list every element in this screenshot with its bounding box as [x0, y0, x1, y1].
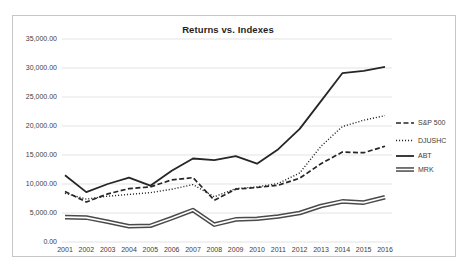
x-tick-label: 2005 — [143, 246, 159, 253]
legend-label: DJUSHC — [418, 137, 446, 144]
x-tick-label: 2010 — [249, 246, 265, 253]
x-tick-label: 2002 — [79, 246, 95, 253]
y-tick-label: 20,000.00 — [26, 122, 57, 129]
chart-plot: 0.005,000.0010,000.0015,000.0020,000.002… — [0, 0, 470, 273]
x-tick-label: 2001 — [57, 246, 73, 253]
legend-label: MRK — [418, 166, 434, 173]
gridlines — [62, 39, 392, 242]
x-tick-label: 2006 — [164, 246, 180, 253]
y-tick-label: 10,000.00 — [26, 180, 57, 187]
series-path — [65, 67, 385, 192]
legend-item-s-p-500: S&P 500 — [396, 119, 446, 126]
y-tick-label: 5,000.00 — [30, 209, 57, 216]
legend-item-mrk: MRK — [396, 166, 434, 173]
x-tick-label: 2004 — [121, 246, 137, 253]
legend-label: ABT — [418, 152, 432, 159]
x-tick-label: 2011 — [271, 246, 286, 253]
x-tick-label: 2016 — [377, 246, 393, 253]
x-tick-label: 2012 — [292, 246, 308, 253]
legend-item-djushc: DJUSHC — [396, 137, 446, 144]
x-tick-label: 2007 — [185, 246, 201, 253]
x-tick-label: 2015 — [356, 246, 372, 253]
y-tick-label: 30,000.00 — [26, 64, 57, 71]
x-tick-label: 2009 — [228, 246, 244, 253]
y-tick-label: 15,000.00 — [26, 151, 57, 158]
x-tick-label: 2008 — [207, 246, 223, 253]
series-line-abt — [65, 67, 385, 192]
legend: S&P 500DJUSHCABTMRK — [396, 119, 446, 172]
x-tick-label: 2003 — [100, 246, 116, 253]
y-tick-label: 35,000.00 — [26, 35, 57, 42]
y-tick-label: 25,000.00 — [26, 93, 57, 100]
x-axis-tick-labels: 2001200220032004200520062007200820092010… — [57, 246, 393, 253]
y-tick-label: 0.00 — [43, 238, 57, 245]
legend-item-abt: ABT — [396, 152, 432, 159]
series-line-mrk — [65, 197, 385, 226]
y-axis-tick-labels: 0.005,000.0010,000.0015,000.0020,000.002… — [26, 35, 57, 245]
x-tick-label: 2014 — [335, 246, 351, 253]
x-tick-label: 2013 — [313, 246, 329, 253]
legend-label: S&P 500 — [418, 119, 446, 126]
